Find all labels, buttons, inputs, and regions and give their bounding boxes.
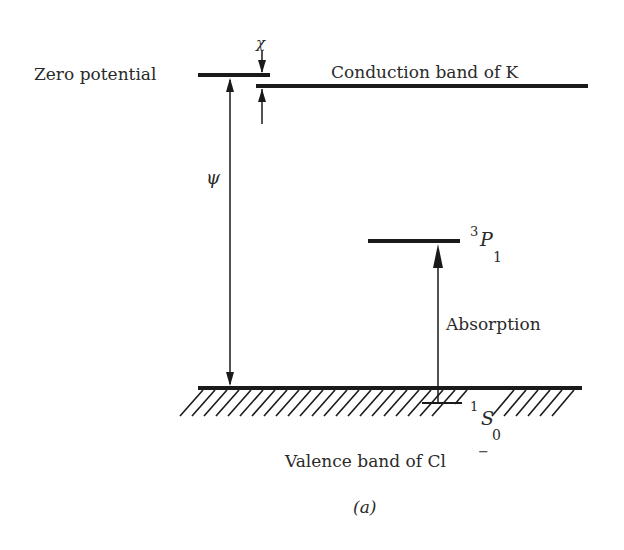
figure-caption: (a) [353,497,376,517]
conduction-band-label: Conduction band of K [331,62,519,82]
svg-text:3: 3 [470,224,478,239]
svg-text:P: P [479,228,494,250]
psi-double-arrow-icon [226,78,234,386]
valence-band-label: Valence band of Cl − [284,444,489,471]
chi-label: χ [255,34,266,52]
svg-text:−: − [478,444,489,459]
psi-label: ψ [206,167,221,188]
zero-potential-label: Zero potential [34,64,156,84]
valence-band-hatching [180,390,574,416]
svg-text:S: S [481,407,494,429]
excited-state-label: 3 P 1 [470,224,502,265]
absorption-label: Absorption [445,314,541,334]
absorption-arrow-icon [433,244,443,404]
svg-text:Valence band of Cl: Valence band of Cl [284,451,446,471]
energy-diagram: Zero potential Conduction band of K χ ψ … [0,0,624,550]
svg-text:1: 1 [493,249,502,265]
ground-state-label: 1 S 0 [470,399,501,443]
svg-text:1: 1 [470,399,478,414]
svg-text:0: 0 [492,427,501,443]
